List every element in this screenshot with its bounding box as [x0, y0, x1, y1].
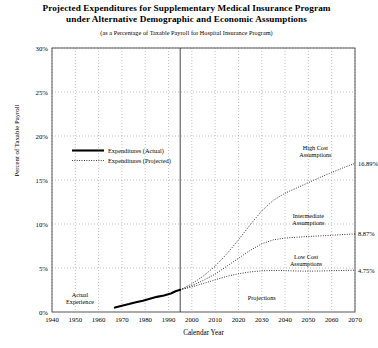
annotation-line-2: Assumptions [275, 151, 355, 158]
endpoint-value-label: 8.87% [358, 230, 375, 237]
annotation-line-1: High Cost [275, 144, 355, 151]
annotation-line-1: Low Cost [266, 253, 346, 260]
data-series-layer [115, 163, 355, 307]
annotation-line-1: Actual [40, 291, 120, 298]
y-axis-tick-label: 20% [18, 133, 48, 140]
chart-annotation-actual: ActualExperience [40, 291, 120, 306]
annotation-line-1: Intermediate [268, 212, 348, 219]
legend-swatches [72, 151, 104, 161]
endpoint-value-label: 16.89% [358, 160, 378, 167]
y-axis-tick-label: 25% [18, 89, 48, 96]
grid-lines [52, 48, 355, 312]
chart-annotation-low-cost: Low CostAssumptions [266, 253, 346, 268]
chart-annotation-intermediate: IntermediateAssumptions [268, 212, 348, 227]
y-axis-tick-label: 30% [18, 45, 48, 52]
y-axis-tick-label: 15% [18, 177, 48, 184]
y-axis-tick-label: 0% [18, 309, 48, 316]
annotation-line-2: Assumptions [268, 219, 348, 226]
endpoint-value-label: 4.75% [358, 267, 375, 274]
x-axis-tick-label: 2070 [338, 316, 372, 323]
y-axis-tick-label: 5% [18, 265, 48, 272]
y-axis-tick-label: 10% [18, 221, 48, 228]
legend-label: Expenditures (Projected) [108, 157, 171, 164]
annotation-line-2: Assumptions [266, 260, 346, 267]
legend-label: Expenditures (Actual) [108, 147, 164, 154]
annotation-line-2: Experience [40, 298, 120, 305]
chart-annotation-high-cost: High CostAssumptions [275, 144, 355, 159]
chart-annotation-projections: Projections [222, 294, 302, 301]
